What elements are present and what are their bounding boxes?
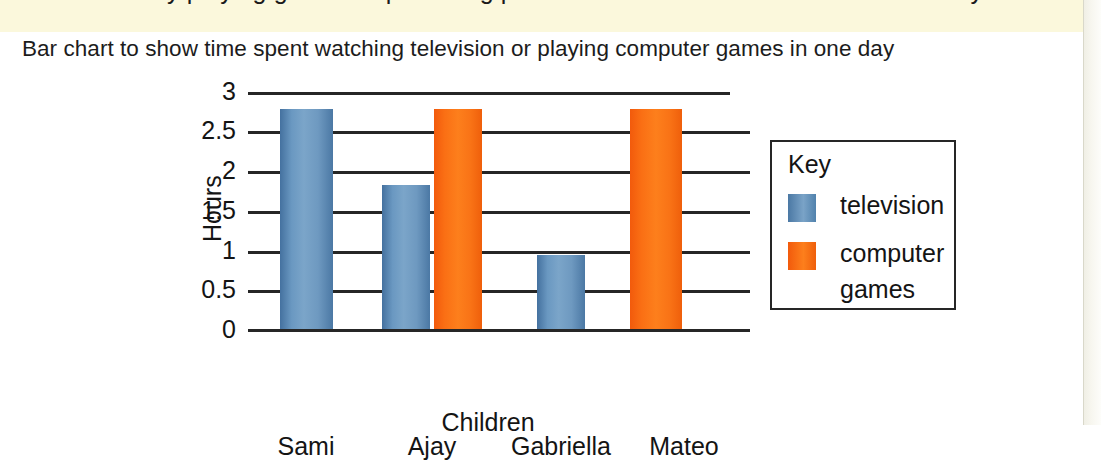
chart-legend: Key television computer games [770, 140, 956, 310]
bar-ajay-television [382, 185, 430, 329]
ytick-label-0: 0 [178, 317, 236, 342]
page-edge-shadow [1083, 0, 1101, 425]
bar-ajay-computer-games [434, 109, 482, 329]
x-axis-line [248, 329, 750, 332]
x-axis-title: Children [248, 408, 728, 437]
bar-mateo-computer-games [630, 109, 682, 329]
ytick-label-3: 3 [178, 79, 236, 104]
ytick-label-0.5: 0.5 [178, 277, 236, 302]
legend-label-computer-games: computer [840, 238, 944, 268]
legend-swatch-television [788, 194, 816, 222]
page-edge-line [1083, 0, 1084, 425]
legend-label-computer-games-line2: games [840, 274, 915, 304]
gridline-3 [248, 92, 730, 95]
chart-title: Bar chart to show time spent watching te… [22, 36, 894, 62]
bar-gabriella-television [537, 255, 585, 329]
plot-area: 3 2.5 2 1.5 1 0.5 0 Hours Sami Ajay Gabr… [248, 92, 728, 332]
y-axis-title: Hours [198, 175, 227, 242]
top-banner-strip: a day playing games or practising piano.… [0, 0, 1101, 32]
bar-sami-television [280, 109, 333, 329]
legend-swatch-computer-games [788, 242, 816, 270]
legend-title: Key [788, 150, 831, 179]
ytick-label-2.5: 2.5 [178, 118, 236, 143]
banner-clipped-text: a day playing games or practising piano.… [118, 0, 988, 5]
legend-label-television: television [840, 190, 944, 220]
